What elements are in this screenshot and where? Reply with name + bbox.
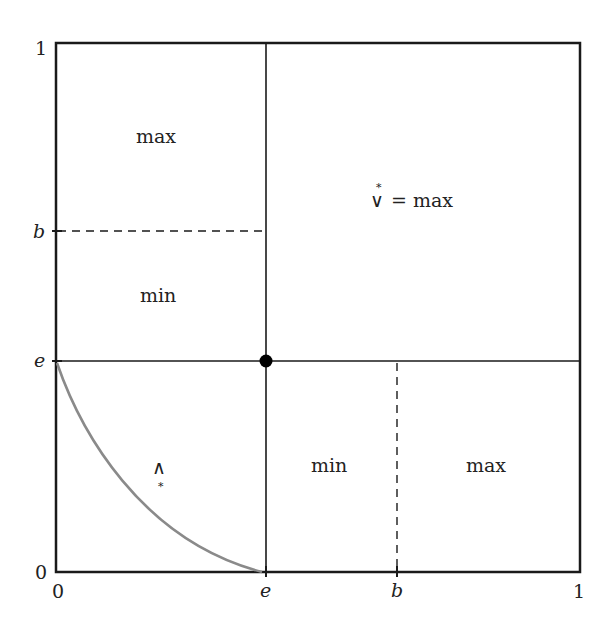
x-tick-b: b — [391, 579, 403, 601]
y-tick-1: 1 — [35, 37, 47, 59]
region-label-bottom-middle-min: min — [311, 454, 347, 476]
x-tick-e: e — [260, 579, 271, 601]
y-tick-b: b — [33, 220, 45, 242]
y-tick-e: e — [34, 349, 45, 371]
region-label-top-left-min: min — [140, 284, 176, 306]
intersection-point — [260, 355, 273, 368]
region-label-bottom-right-max: max — [466, 454, 506, 476]
x-tick-1: 1 — [573, 580, 585, 602]
wedge-star-symbol: * — [158, 480, 164, 493]
region-label-top-right-max: = max — [391, 189, 453, 211]
vee-symbol: ∨ — [370, 189, 384, 211]
diagram-canvas: 1 b e 0 0 e b 1 max min * ∨ = max ∧ * mi… — [0, 0, 615, 629]
y-tick-0: 0 — [35, 561, 47, 583]
region-label-top-left-max: max — [136, 125, 176, 147]
wedge-symbol: ∧ — [152, 456, 166, 478]
x-tick-0: 0 — [52, 580, 64, 602]
